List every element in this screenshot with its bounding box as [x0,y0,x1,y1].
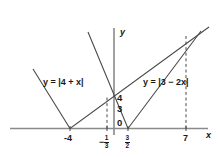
x-axis-label: x [206,131,211,140]
y-value-3: 3 [117,104,122,114]
x-tick-label-neg-4: -4 [64,134,72,143]
y-value-4: 4 [117,93,122,103]
fraction-one-third: 13 [104,135,109,149]
graph-figure: y x 4 3 0 -4 −13 32 7 y = |4 + x| y = |3… [0,0,222,157]
x-tick-label-neg-one-third: −13 [99,134,109,150]
x-tick-label-7: 7 [183,134,188,143]
y-value-0: 0 [117,118,122,128]
graph-canvas [0,0,222,157]
y-axis-label: y [120,28,125,37]
fraction-three-halves: 32 [125,135,130,149]
equation-label-left: y = |4 + x| [43,78,84,87]
equation-label-right: y = |3 − 2x| [143,78,189,87]
x-tick-label-three-halves: 32 [125,134,130,150]
